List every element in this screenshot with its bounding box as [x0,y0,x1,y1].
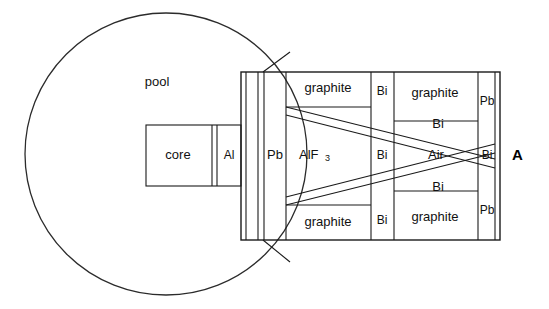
top-bi-label: Bi [377,84,388,98]
bottom-graphite-2-label: graphite [412,209,459,224]
core-label: core [165,147,190,162]
diagram-canvas: pool core Al Pb AlF 3 Bi Air Bi A graphi… [0,0,549,309]
air-label: Air [428,147,445,162]
upper-diagonal-bi-label: Bi [432,116,444,131]
top-graphite-2-label: graphite [412,85,459,100]
alf3-label: AlF [299,147,319,162]
top-graphite-1-label: graphite [305,80,352,95]
bi-center-right-label: Bi [482,148,493,162]
bottom-graphite-1-label: graphite [305,214,352,229]
bottom-bi-label: Bi [377,213,388,227]
pool-leader-line-bottom [263,240,290,262]
reactor-schematic-diagram: pool core Al Pb AlF 3 Bi Air Bi A graphi… [0,0,549,309]
alf3-subscript: 3 [325,153,330,163]
pool-label: pool [145,74,170,89]
bi-center-left-label: Bi [377,148,388,162]
pb-center-label: Pb [267,147,283,162]
top-pb-label: Pb [480,94,495,108]
bottom-pb-label: Pb [480,203,495,217]
lower-diagonal-bi-label: Bi [432,179,444,194]
al-label: Al [224,148,235,162]
axis-label-a: A [512,146,523,163]
